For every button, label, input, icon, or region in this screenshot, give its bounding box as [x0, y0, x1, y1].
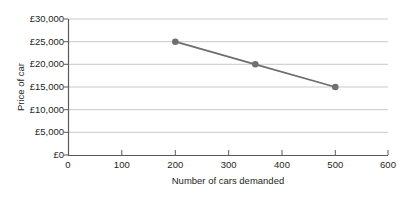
x-tick-label-300: 300 — [209, 159, 249, 170]
demand-curve-chart: Price of car £30,000 £25,000 £20,000 £15… — [0, 0, 408, 202]
x-tick-label-0: 0 — [48, 159, 88, 170]
x-tick-label-400: 400 — [262, 159, 302, 170]
x-tick-label-600: 600 — [368, 159, 408, 170]
x-tick-label-500: 500 — [315, 159, 355, 170]
x-axis-title: Number of cars demanded — [68, 175, 388, 187]
x-tick-label-100: 100 — [102, 159, 142, 170]
x-axis-tick-labels: 0 100 200 300 400 500 600 — [0, 0, 408, 202]
x-tick-label-200: 200 — [155, 159, 195, 170]
